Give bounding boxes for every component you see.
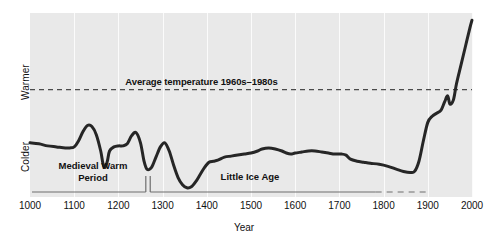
x-tick-1600: 1600: [284, 200, 306, 211]
y-axis-label-colder: Colder: [20, 142, 31, 172]
x-tick-1700: 1700: [328, 200, 350, 211]
x-tick-2000: 2000: [461, 200, 483, 211]
x-tick-1300: 1300: [151, 200, 173, 211]
mwp-line-2: Period: [78, 172, 108, 183]
x-tick-1400: 1400: [196, 200, 218, 211]
lia-line-1: Little Ice Age: [221, 171, 280, 182]
average-temperature-label: Average temperature 1960s–1980s: [125, 76, 277, 87]
chart-overlay: [0, 0, 488, 252]
x-tick-1000: 1000: [19, 200, 41, 211]
x-tick-1900: 1900: [417, 200, 439, 211]
x-tick-1100: 1100: [63, 200, 85, 211]
temperature-chart-figure: Warmer Colder 10001100120013001400150016…: [0, 0, 488, 252]
x-axis-title: Year: [0, 222, 488, 233]
little-ice-age-label: Little Ice Age: [190, 171, 310, 183]
mwp-line-1: Medieval Warm: [59, 160, 128, 171]
x-tick-1200: 1200: [107, 200, 129, 211]
x-tick-1800: 1800: [372, 200, 394, 211]
y-axis-label-warmer: Warmer: [20, 64, 31, 100]
x-tick-1500: 1500: [240, 200, 262, 211]
medieval-warm-period-label: Medieval Warm Period: [38, 160, 148, 183]
